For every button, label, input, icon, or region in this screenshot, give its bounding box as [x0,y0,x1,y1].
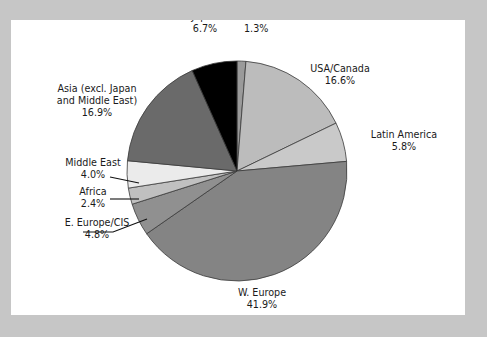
slice-label-line: 41.9% [247,299,277,310]
slice-label-line: 16.6% [325,75,355,86]
slice-label-line: USA/Canada [310,63,370,74]
slice-label-latin-america: Latin America5.8% [371,129,437,152]
slice-label-africa: Africa2.4% [79,186,106,209]
slice-label-line: E. Europe/CIS [65,217,130,228]
chart-panel: Oceania1.3%USA/Canada16.6%Latin America5… [11,20,465,315]
pie-chart[interactable]: Oceania1.3%USA/Canada16.6%Latin America5… [11,20,465,315]
slice-label-usa-canada: USA/Canada16.6% [310,63,370,86]
slice-label-line: Oceania [244,20,283,22]
slice-label-line: 16.9% [82,107,112,118]
slice-label-line: 1.3% [244,23,268,34]
slice-label-asia-excl-japan-and-middle-east: Asia (excl. Japanand Middle East)16.9% [57,83,137,118]
slice-label-line: 4.8% [85,229,109,240]
slice-label-line: W. Europe [238,287,286,298]
slice-label-w-europe: W. Europe41.9% [238,287,286,310]
slice-label-oceania: Oceania1.3% [244,20,283,34]
slice-label-line: 4.0% [81,169,105,180]
slice-label-middle-east: Middle East4.0% [65,157,121,180]
slice-label-japan: Japan6.7% [191,20,219,34]
pie-slices-group [127,61,347,281]
slice-label-line: 6.7% [193,23,217,34]
slice-label-line: 2.4% [81,198,105,209]
slice-label-line: Latin America [371,129,437,140]
slice-label-line: Asia (excl. Japan [58,83,137,94]
figure-frame: Oceania1.3%USA/Canada16.6%Latin America5… [0,0,487,337]
slice-label-line: Africa [79,186,106,197]
slice-label-line: Middle East [65,157,121,168]
slice-label-line: and Middle East) [57,95,137,106]
slice-label-line: Japan [191,20,219,22]
slice-label-line: 5.8% [392,141,416,152]
slice-label-e-europe-cis: E. Europe/CIS4.8% [65,217,130,240]
